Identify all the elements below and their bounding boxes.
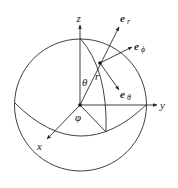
svg-text:r: r	[127, 17, 131, 26]
e-r-vector	[80, 27, 119, 105]
origin-point	[78, 103, 82, 107]
svg-text:ϕ: ϕ	[141, 45, 145, 54]
phi-label: φ	[75, 111, 81, 123]
spherical-coordinates-diagram: z y x θ r φ e r e ϕ e θ	[0, 0, 178, 188]
e-phi-label: e ϕ	[134, 40, 145, 54]
x-axis-label: x	[36, 140, 42, 152]
e-r-label: e r	[120, 12, 131, 26]
svg-text:e: e	[120, 88, 125, 100]
theta-label: θ	[82, 76, 88, 88]
svg-text:e: e	[134, 40, 139, 52]
r-label: r	[95, 70, 100, 82]
projection-line	[80, 105, 106, 132]
svg-text:e: e	[120, 12, 125, 24]
e-theta-label: e θ	[120, 88, 131, 102]
z-axis-label: z	[76, 12, 82, 24]
point-r	[98, 61, 102, 65]
svg-text:θ: θ	[127, 93, 131, 102]
y-axis-label: y	[159, 99, 165, 111]
